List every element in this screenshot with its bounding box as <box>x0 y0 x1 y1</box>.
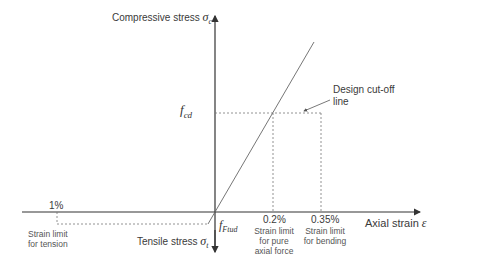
mark-1pct-desc: Strain limit for tension <box>28 229 68 249</box>
sigma-t-symbol: σt <box>200 234 208 248</box>
mark-0.2pct-desc: Strain limit for pure axial force <box>252 226 296 256</box>
stress-strain-diagram: Compressive stress σc Tensile stress σt … <box>0 0 478 269</box>
fftud-label: fFtud <box>219 220 237 235</box>
mark-0.35pct-desc: Strain limit for bending <box>303 226 347 246</box>
x-axis-label: Axial strain ε <box>365 218 427 229</box>
annotation-arrow <box>304 100 330 111</box>
y-axis-label: Compressive stress σc <box>112 12 212 27</box>
sigma-c-symbol: σc <box>203 10 212 24</box>
mark-0.2pct-value: 0.2% <box>263 214 286 225</box>
design-cutoff-annotation: Design cut-off line <box>333 84 395 108</box>
mark-0.35pct-value: 0.35% <box>311 214 339 225</box>
tensile-stress-label: Tensile stress σt <box>137 236 209 251</box>
fcd-label: fcd <box>180 104 192 121</box>
mark-1pct-value: 1% <box>49 200 63 211</box>
stress-strain-line <box>208 42 314 224</box>
